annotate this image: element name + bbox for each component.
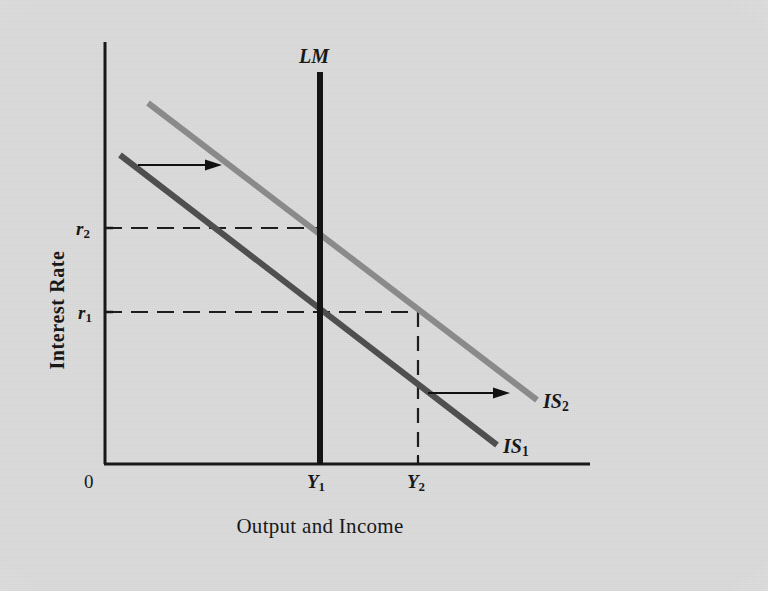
chart-canvas [0, 0, 768, 591]
isl m-figure: LM IS2 IS1 r2 r1 Y1 Y2 0 Output and Inco… [0, 0, 768, 591]
curve-label-lm: LM [299, 46, 329, 66]
y-tick-label-r1: r1 [78, 303, 92, 325]
x-axis-title: Output and Income [0, 516, 640, 537]
shift-arrow-upper [138, 160, 222, 171]
curve-label-is2: IS2 [543, 391, 569, 414]
shift-arrow-lower [428, 388, 510, 399]
is1-curve[interactable] [120, 155, 497, 445]
is2-curve[interactable] [148, 103, 537, 400]
origin-label: 0 [84, 472, 94, 491]
y-tick-label-r2: r2 [76, 219, 90, 241]
y-axis-title: Interest Rate [47, 185, 77, 435]
curve-label-is1: IS1 [503, 436, 529, 459]
x-tick-label-y1: Y1 [307, 472, 325, 494]
x-tick-label-y2: Y2 [407, 472, 425, 494]
